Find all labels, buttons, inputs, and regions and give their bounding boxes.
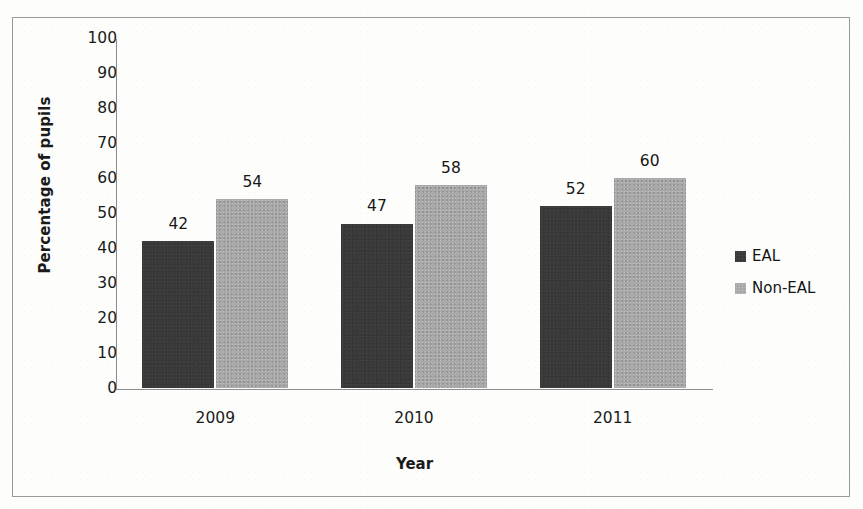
bar-group: 4758: [315, 38, 514, 388]
y-axis-tick-label: 40: [61, 241, 117, 257]
x-axis-title: Year: [116, 455, 713, 473]
bar-chart-figure: Percentage of pupils 1009080706050403020…: [0, 0, 863, 509]
y-axis-tick-label: 50: [61, 206, 117, 222]
bar-value-label: 42: [148, 217, 208, 233]
bar-value-label: 52: [546, 182, 606, 198]
x-axis-tick-label: 2011: [543, 409, 683, 427]
y-axis-tick-label: 60: [61, 171, 117, 187]
y-axis-tick-label: 0: [61, 381, 117, 397]
legend-swatch-icon: [735, 251, 746, 262]
bar-non-eal-2009: [216, 199, 288, 388]
x-axis-line: [116, 389, 713, 390]
legend-label: Non-EAL: [752, 279, 815, 297]
legend-label: EAL: [752, 247, 780, 265]
y-axis-tick-label: 10: [61, 346, 117, 362]
y-axis-tick-label: 100: [61, 31, 117, 47]
bar-group: 4254: [116, 38, 315, 388]
x-axis-tick-label: 2010: [344, 409, 484, 427]
bar-group: 5260: [513, 38, 712, 388]
legend-item-non-eal[interactable]: Non-EAL: [735, 272, 845, 304]
x-axis-tick-label: 2009: [145, 409, 285, 427]
y-axis-tick-label: 90: [61, 66, 117, 82]
bar-value-label: 47: [347, 199, 407, 215]
y-axis-tick-label: 80: [61, 101, 117, 117]
y-axis-title: Percentage of pupils: [36, 95, 54, 275]
y-axis-tick-labels: 1009080706050403020100: [61, 18, 117, 498]
bar-value-label: 60: [620, 154, 680, 170]
bar-eal-2010: [341, 224, 413, 389]
y-axis-tick-label: 20: [61, 311, 117, 327]
bar-eal-2011: [540, 206, 612, 388]
y-axis-tick-label: 70: [61, 136, 117, 152]
bar-eal-2009: [142, 241, 214, 388]
legend-swatch-icon: [735, 283, 746, 294]
bar-value-label: 54: [222, 175, 282, 191]
chart-outer-frame: Percentage of pupils 1009080706050403020…: [12, 17, 850, 497]
bar-non-eal-2010: [415, 185, 487, 388]
bar-non-eal-2011: [614, 178, 686, 388]
plot-area: 425447585260: [116, 39, 712, 389]
chart-legend: EALNon-EAL: [735, 240, 845, 304]
y-axis-tick-label: 30: [61, 276, 117, 292]
bar-value-label: 58: [421, 161, 481, 177]
legend-item-eal[interactable]: EAL: [735, 240, 845, 272]
